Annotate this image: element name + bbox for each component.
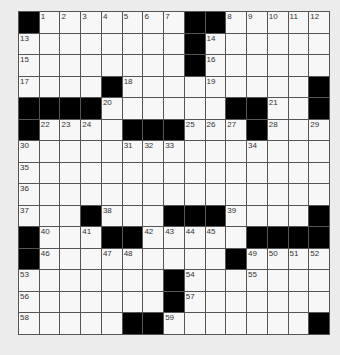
grid-cell[interactable] bbox=[289, 292, 309, 313]
grid-cell[interactable]: 59 bbox=[164, 313, 184, 334]
grid-cell[interactable] bbox=[60, 141, 80, 162]
grid-cell[interactable]: 35 bbox=[19, 163, 39, 184]
grid-cell[interactable] bbox=[185, 163, 205, 184]
grid-cell[interactable] bbox=[143, 34, 163, 55]
grid-cell[interactable]: 27 bbox=[226, 120, 246, 141]
grid-cell[interactable] bbox=[60, 206, 80, 227]
grid-cell[interactable] bbox=[268, 34, 288, 55]
grid-cell[interactable]: 57 bbox=[185, 292, 205, 313]
grid-cell[interactable] bbox=[123, 55, 143, 76]
grid-cell[interactable] bbox=[81, 141, 101, 162]
grid-cell[interactable]: 31 bbox=[123, 141, 143, 162]
grid-cell[interactable] bbox=[81, 184, 101, 205]
grid-cell[interactable] bbox=[81, 249, 101, 270]
grid-cell[interactable] bbox=[102, 270, 122, 291]
grid-cell[interactable] bbox=[102, 120, 122, 141]
grid-cell[interactable] bbox=[60, 34, 80, 55]
grid-cell[interactable]: 45 bbox=[206, 227, 226, 248]
grid-cell[interactable] bbox=[60, 270, 80, 291]
grid-cell[interactable]: 49 bbox=[247, 249, 267, 270]
grid-cell[interactable] bbox=[123, 163, 143, 184]
grid-cell[interactable]: 13 bbox=[19, 34, 39, 55]
grid-cell[interactable] bbox=[247, 55, 267, 76]
grid-cell[interactable] bbox=[102, 163, 122, 184]
grid-cell[interactable]: 23 bbox=[60, 120, 80, 141]
grid-cell[interactable] bbox=[102, 55, 122, 76]
grid-cell[interactable]: 54 bbox=[185, 270, 205, 291]
grid-cell[interactable] bbox=[268, 77, 288, 98]
grid-cell[interactable] bbox=[40, 206, 60, 227]
grid-cell[interactable]: 20 bbox=[102, 98, 122, 119]
grid-cell[interactable]: 40 bbox=[40, 227, 60, 248]
grid-cell[interactable] bbox=[185, 249, 205, 270]
grid-cell[interactable]: 17 bbox=[19, 77, 39, 98]
grid-cell[interactable]: 19 bbox=[206, 77, 226, 98]
grid-cell[interactable]: 26 bbox=[206, 120, 226, 141]
grid-cell[interactable] bbox=[81, 313, 101, 334]
grid-cell[interactable] bbox=[206, 270, 226, 291]
grid-cell[interactable] bbox=[206, 98, 226, 119]
grid-cell[interactable] bbox=[81, 163, 101, 184]
grid-cell[interactable] bbox=[143, 184, 163, 205]
grid-cell[interactable] bbox=[226, 141, 246, 162]
grid-cell[interactable] bbox=[268, 141, 288, 162]
grid-cell[interactable] bbox=[268, 163, 288, 184]
grid-cell[interactable] bbox=[247, 292, 267, 313]
grid-cell[interactable] bbox=[164, 34, 184, 55]
grid-cell[interactable]: 39 bbox=[226, 206, 246, 227]
grid-cell[interactable]: 29 bbox=[309, 120, 329, 141]
grid-cell[interactable]: 11 bbox=[289, 12, 309, 33]
grid-cell[interactable] bbox=[226, 270, 246, 291]
grid-cell[interactable] bbox=[289, 141, 309, 162]
grid-cell[interactable] bbox=[206, 292, 226, 313]
grid-cell[interactable]: 28 bbox=[268, 120, 288, 141]
grid-cell[interactable]: 22 bbox=[40, 120, 60, 141]
grid-cell[interactable] bbox=[289, 34, 309, 55]
grid-cell[interactable] bbox=[60, 77, 80, 98]
grid-cell[interactable] bbox=[226, 34, 246, 55]
grid-cell[interactable] bbox=[60, 292, 80, 313]
grid-cell[interactable] bbox=[81, 270, 101, 291]
grid-cell[interactable] bbox=[164, 55, 184, 76]
grid-cell[interactable] bbox=[164, 249, 184, 270]
grid-cell[interactable]: 44 bbox=[185, 227, 205, 248]
grid-cell[interactable]: 15 bbox=[19, 55, 39, 76]
grid-cell[interactable]: 43 bbox=[164, 227, 184, 248]
grid-cell[interactable] bbox=[123, 292, 143, 313]
grid-cell[interactable] bbox=[247, 184, 267, 205]
grid-cell[interactable] bbox=[60, 55, 80, 76]
grid-cell[interactable] bbox=[102, 292, 122, 313]
grid-cell[interactable] bbox=[309, 163, 329, 184]
grid-cell[interactable] bbox=[102, 184, 122, 205]
grid-cell[interactable] bbox=[268, 270, 288, 291]
grid-cell[interactable] bbox=[289, 55, 309, 76]
grid-cell[interactable]: 30 bbox=[19, 141, 39, 162]
grid-cell[interactable] bbox=[123, 270, 143, 291]
grid-cell[interactable] bbox=[309, 184, 329, 205]
grid-cell[interactable] bbox=[143, 55, 163, 76]
grid-cell[interactable]: 55 bbox=[247, 270, 267, 291]
grid-cell[interactable] bbox=[185, 141, 205, 162]
grid-cell[interactable] bbox=[309, 55, 329, 76]
grid-cell[interactable] bbox=[102, 34, 122, 55]
grid-cell[interactable] bbox=[143, 206, 163, 227]
grid-cell[interactable] bbox=[268, 55, 288, 76]
grid-cell[interactable] bbox=[164, 77, 184, 98]
grid-cell[interactable] bbox=[206, 249, 226, 270]
grid-cell[interactable] bbox=[268, 206, 288, 227]
grid-cell[interactable]: 25 bbox=[185, 120, 205, 141]
grid-cell[interactable] bbox=[40, 270, 60, 291]
grid-cell[interactable]: 21 bbox=[268, 98, 288, 119]
grid-cell[interactable] bbox=[309, 141, 329, 162]
grid-cell[interactable] bbox=[81, 77, 101, 98]
grid-cell[interactable]: 33 bbox=[164, 141, 184, 162]
grid-cell[interactable]: 12 bbox=[309, 12, 329, 33]
grid-cell[interactable] bbox=[40, 292, 60, 313]
grid-cell[interactable] bbox=[143, 249, 163, 270]
grid-cell[interactable]: 51 bbox=[289, 249, 309, 270]
grid-cell[interactable]: 16 bbox=[206, 55, 226, 76]
grid-cell[interactable] bbox=[226, 184, 246, 205]
grid-cell[interactable] bbox=[60, 227, 80, 248]
grid-cell[interactable] bbox=[309, 34, 329, 55]
grid-cell[interactable] bbox=[143, 77, 163, 98]
